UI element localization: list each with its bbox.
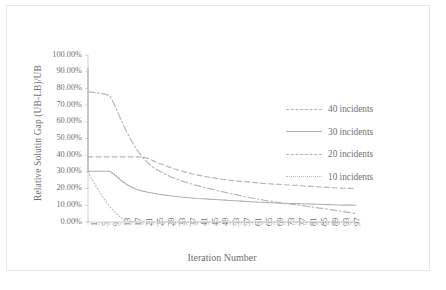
legend-label: 20 incidents <box>328 149 373 159</box>
legend-line-swatch <box>286 176 322 177</box>
legend-line-swatch <box>286 131 322 132</box>
legend-item[interactable]: 30 incidents <box>286 123 436 141</box>
legend-item[interactable]: 20 incidents <box>286 145 436 163</box>
legend-line-swatch <box>286 109 322 110</box>
chart-legend: 40 incidents30 incidents20 incidents10 i… <box>286 100 436 190</box>
legend-item[interactable]: 10 incidents <box>286 168 436 186</box>
legend-line-swatch <box>286 154 322 155</box>
legend-item[interactable]: 40 incidents <box>286 100 436 118</box>
legend-label: 30 incidents <box>328 127 373 137</box>
legend-label: 10 incidents <box>328 172 373 182</box>
legend-label: 40 incidents <box>328 104 373 114</box>
